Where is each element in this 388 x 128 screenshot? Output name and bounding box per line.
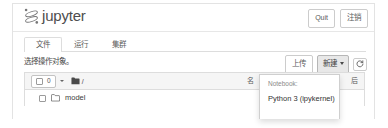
column-header-modified[interactable]: 后 xyxy=(351,77,358,84)
breadcrumb[interactable]: / xyxy=(71,77,84,85)
folder-outline-icon xyxy=(51,94,60,102)
refresh-button[interactable] xyxy=(353,58,367,71)
action-button-group: 上传 新建 xyxy=(285,55,367,74)
dropdown-section-label: Notebook: xyxy=(260,79,339,90)
folder-icon xyxy=(71,77,80,85)
row-name[interactable]: model xyxy=(65,94,85,102)
logout-button[interactable]: 注销 xyxy=(340,9,368,28)
selection-hint: 选择操作对象。 xyxy=(24,58,73,66)
page-header: jupyter Quit 注销 xyxy=(13,4,374,32)
new-button[interactable]: 新建 xyxy=(317,55,349,74)
refresh-icon xyxy=(356,60,364,68)
jupyter-logo[interactable]: jupyter xyxy=(24,8,86,24)
dropdown-item-python3[interactable]: Python 3 (ipykernel) xyxy=(260,90,339,108)
quit-button[interactable]: Quit xyxy=(308,9,335,28)
brand-text: jupyter xyxy=(42,8,86,24)
header-button-group: Quit 注销 xyxy=(308,9,368,28)
new-dropdown-menu: Notebook: Python 3 (ipykernel) xyxy=(259,74,340,119)
tab-bar: 文件 运行 集群 xyxy=(13,32,374,52)
tab-running[interactable]: 运行 xyxy=(62,37,100,53)
chevron-down-icon xyxy=(340,62,344,65)
new-button-label: 新建 xyxy=(323,60,337,68)
selection-count: 0 xyxy=(47,78,51,85)
selection-chevron-down-icon[interactable] xyxy=(60,80,64,82)
select-all-group[interactable]: 0 xyxy=(31,75,56,88)
action-bar: 选择操作对象。 上传 新建 xyxy=(13,54,374,72)
jupyter-planet-icon xyxy=(24,8,39,24)
upload-button[interactable]: 上传 xyxy=(285,55,313,74)
tab-files[interactable]: 文件 xyxy=(24,37,62,53)
breadcrumb-path: / xyxy=(82,78,84,85)
select-all-checkbox[interactable] xyxy=(36,78,43,85)
tab-clusters[interactable]: 集群 xyxy=(100,37,138,53)
jupyter-notebook-page: jupyter Quit 注销 文件 运行 集群 选择操作对象。 上传 新建 xyxy=(0,0,388,119)
column-header-name[interactable]: 名 xyxy=(247,77,254,84)
row-checkbox[interactable] xyxy=(39,95,46,102)
